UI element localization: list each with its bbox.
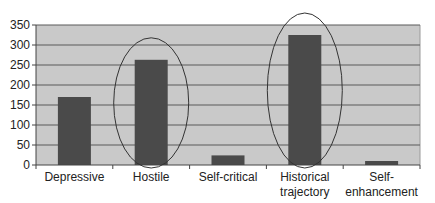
y-tick-label: 250 [10, 58, 30, 72]
bar-depressive [58, 97, 91, 165]
y-tick-label: 0 [23, 158, 30, 172]
x-tick-label: enhancement [345, 185, 418, 199]
y-tick-label: 300 [10, 38, 30, 52]
bar-self-critical [212, 155, 245, 165]
plot-area [36, 25, 420, 165]
y-tick-label: 150 [10, 98, 30, 112]
bar-historical-trajectory [288, 35, 321, 165]
y-tick-label: 100 [10, 118, 30, 132]
x-tick-label: Hostile [133, 170, 170, 184]
x-tick-label: trajectory [280, 185, 329, 199]
y-tick-label: 50 [17, 138, 31, 152]
x-tick-label: Self- [369, 170, 394, 184]
y-tick-label: 350 [10, 18, 30, 32]
x-axis: DepressiveHostileSelf-criticalHistorical… [36, 165, 420, 199]
x-tick-label: Self-critical [199, 170, 258, 184]
x-tick-label: Depressive [44, 170, 104, 184]
x-tick-label: Historical [280, 170, 329, 184]
y-tick-label: 200 [10, 78, 30, 92]
bar-self-enhancement [365, 161, 398, 165]
y-axis: 050100150200250300350 [10, 18, 36, 172]
bar-hostile [135, 60, 168, 165]
bar-chart: 050100150200250300350 DepressiveHostileS… [0, 0, 435, 203]
